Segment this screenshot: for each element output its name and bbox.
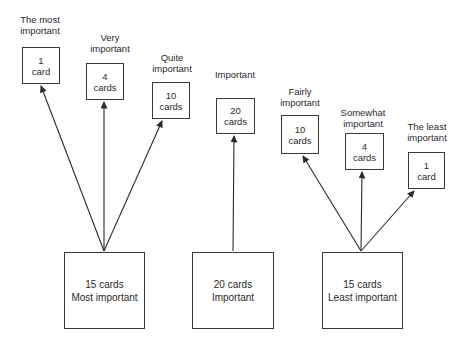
pile-box-20-cards-important: 20 cards — [216, 98, 255, 134]
pile-box-1-card-least: 1 card — [408, 152, 445, 189]
arrow-important-to-20cards-icon — [233, 136, 234, 251]
arrow-least-to-4cards-icon — [361, 172, 362, 251]
arrow-most-to-10cards-icon — [104, 121, 162, 251]
stack-box-important: 20 cards Important — [192, 252, 274, 329]
arrow-most-to-1card-icon — [41, 86, 104, 251]
pile-label-the-most-important: The most important — [2, 14, 78, 36]
card-sort-diagram: The most important Very important Quite … — [0, 0, 467, 347]
pile-box-4-cards-very: 4 cards — [86, 63, 124, 100]
arrow-least-to-10cards-icon — [303, 156, 361, 251]
stack-box-least-important: 15 cards Least important — [322, 252, 403, 329]
pile-box-1-card-most: 1 card — [22, 47, 60, 84]
pile-label-very-important: Very important — [72, 32, 148, 54]
stack-box-most-important: 15 cards Most important — [64, 252, 145, 329]
pile-box-10-cards-fairly: 10 cards — [281, 115, 319, 154]
pile-label-fairly-important: Fairly important — [262, 86, 338, 108]
pile-box-10-cards-quite: 10 cards — [152, 82, 190, 119]
pile-box-4-cards-somewhat: 4 cards — [345, 133, 384, 170]
pile-label-important: Important — [197, 69, 273, 80]
pile-label-the-least-important: The least important — [389, 121, 465, 143]
arrow-least-to-1card-icon — [361, 191, 414, 251]
